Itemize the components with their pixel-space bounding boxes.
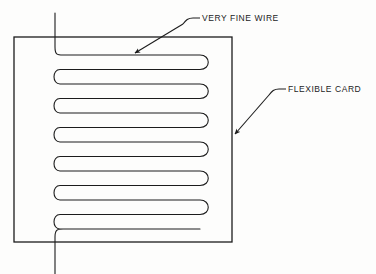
leader-tick-card: [269, 89, 286, 95]
leader-line-wire: [135, 24, 183, 53]
leader-tick-wire: [183, 18, 200, 24]
label-flexible-card: FLEXIBLE CARD: [288, 85, 361, 94]
very-fine-wire-path: [54, 13, 208, 274]
technical-diagram: [0, 0, 376, 274]
flexible-card-outline: [14, 37, 232, 242]
leader-line-card: [235, 95, 269, 134]
label-very-fine-wire: VERY FINE WIRE: [202, 14, 279, 23]
figure-canvas: VERY FINE WIRE FLEXIBLE CARD: [0, 0, 376, 274]
